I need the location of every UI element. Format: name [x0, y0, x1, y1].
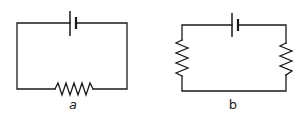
wire-a-left: [17, 23, 70, 89]
label-a: a: [69, 97, 77, 112]
circuit-b: b: [176, 13, 292, 112]
battery-icon: [232, 13, 238, 37]
wire-a-right: [76, 23, 127, 89]
circuit-diagrams: a b: [0, 0, 303, 114]
wire-b-bottom: [182, 75, 286, 91]
wire-b-top-right: [238, 25, 286, 43]
resistor-icon: [176, 40, 188, 76]
battery-icon: [70, 11, 76, 36]
circuit-a: a: [17, 11, 127, 112]
resistor-icon: [280, 43, 292, 75]
wire-b-top-left: [182, 25, 232, 40]
label-b: b: [229, 97, 237, 112]
resistor-icon: [55, 83, 93, 95]
